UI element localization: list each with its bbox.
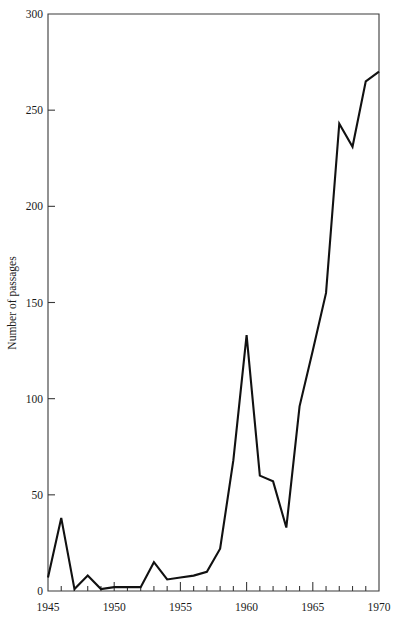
data-series-group [48,72,379,589]
y-axis-title: Number of passages [6,256,19,350]
y-tick-label-150: 150 [26,297,44,309]
x-tick-label-1970: 1970 [368,601,391,613]
x-tick-label-1950: 1950 [103,601,126,613]
data-line-series-0 [48,72,379,589]
x-tick-label-1965: 1965 [301,601,324,613]
y-tick-label-100: 100 [26,393,44,405]
x-axis-ticks [61,582,366,591]
y-tick-label-300: 300 [26,8,44,20]
x-axis-tick-labels: 194519501955196019651970 [37,601,391,613]
y-tick-label-200: 200 [26,200,44,212]
y-axis-ticks [48,110,55,495]
y-tick-label-0: 0 [37,585,43,597]
y-tick-label-50: 50 [32,489,44,501]
y-tick-label-250: 250 [26,104,44,116]
figure-container: 050100150200250300 194519501955196019651… [0,0,400,626]
line-chart: 050100150200250300 194519501955196019651… [0,0,400,626]
plot-frame [48,14,379,591]
y-axis-tick-labels: 050100150200250300 [26,8,44,597]
x-tick-label-1955: 1955 [169,601,192,613]
x-tick-label-1960: 1960 [235,601,258,613]
x-tick-label-1945: 1945 [37,601,60,613]
